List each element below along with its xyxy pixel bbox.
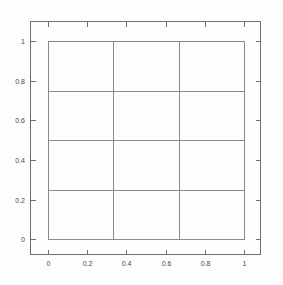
x-tick-label-0: 0 xyxy=(47,260,51,267)
y-tick-label-2: 0.4 xyxy=(15,157,25,164)
y-axis-tick-labels: 0 0.2 0.4 0.6 0.8 1 xyxy=(15,38,25,243)
axis-frame-rect xyxy=(31,22,261,255)
axis-ticks-bottom xyxy=(49,250,245,255)
axis-ticks-left xyxy=(31,42,36,240)
y-tick-label-5: 1 xyxy=(21,38,25,45)
mesh-horizontal-lines xyxy=(49,91,245,190)
x-tick-label-5: 1 xyxy=(243,260,247,267)
x-tick-label-1: 0.2 xyxy=(83,260,93,267)
x-tick-label-4: 0.8 xyxy=(201,260,211,267)
x-tick-label-3: 0.6 xyxy=(162,260,172,267)
plot-figure: 0 0.2 0.4 0.6 0.8 1 0 0.2 0.4 0.6 0.8 1 xyxy=(0,0,283,285)
y-tick-label-0: 0 xyxy=(21,236,25,243)
plot-canvas: 0 0.2 0.4 0.6 0.8 1 0 0.2 0.4 0.6 0.8 1 xyxy=(0,0,283,285)
y-tick-label-3: 0.6 xyxy=(15,117,25,124)
x-tick-label-2: 0.4 xyxy=(122,260,132,267)
y-tick-label-1: 0.2 xyxy=(15,197,25,204)
axis-ticks-top xyxy=(49,22,245,27)
y-tick-label-4: 0.8 xyxy=(15,78,25,85)
axis-ticks-right xyxy=(256,42,261,240)
axis-frame xyxy=(31,22,261,255)
x-axis-tick-labels: 0 0.2 0.4 0.6 0.8 1 xyxy=(47,260,247,267)
